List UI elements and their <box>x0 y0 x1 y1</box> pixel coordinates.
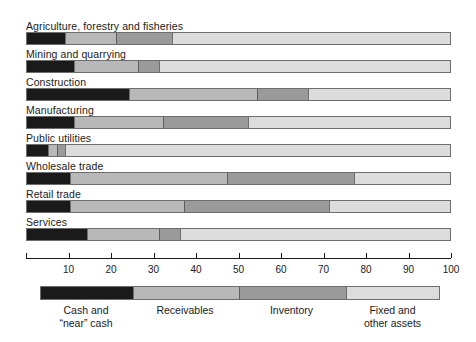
bar-segment[interactable] <box>27 61 74 72</box>
bar-segment[interactable] <box>159 61 451 72</box>
bar-segment[interactable] <box>227 173 355 184</box>
axis-tick-label: 80 <box>360 264 371 275</box>
legend-swatch[interactable] <box>133 287 239 299</box>
bar-segment[interactable] <box>70 173 227 184</box>
bar-segment[interactable] <box>354 173 451 184</box>
bar-segment[interactable] <box>138 61 159 72</box>
x-axis-line <box>26 258 451 259</box>
bar-segment[interactable] <box>27 33 65 44</box>
axis-tick-label: 20 <box>105 264 116 275</box>
legend-label: Fixed andother assets <box>364 304 421 329</box>
bar-segment[interactable] <box>65 33 116 44</box>
axis-tick-label: 70 <box>318 264 329 275</box>
stacked-bar[interactable] <box>26 32 451 45</box>
axis-tick-label: 50 <box>233 264 244 275</box>
bar-segment[interactable] <box>27 117 74 128</box>
stacked-bar[interactable] <box>26 60 451 73</box>
bar-segment[interactable] <box>48 145 57 156</box>
axis-tick <box>281 253 282 258</box>
bar-category-label: Agriculture, forestry and fisheries <box>26 20 183 32</box>
bar-segment[interactable] <box>257 89 308 100</box>
bar-segment[interactable] <box>329 201 451 212</box>
bar-category-label: Services <box>26 216 67 228</box>
bar-segment[interactable] <box>184 201 329 212</box>
stacked-bar[interactable] <box>26 228 451 241</box>
bar-segment[interactable] <box>27 229 87 240</box>
axis-tick-label: 40 <box>190 264 201 275</box>
bar-segment[interactable] <box>180 229 451 240</box>
axis-tick <box>154 253 155 258</box>
legend-label: Inventory <box>270 304 313 317</box>
legend-label: Receivables <box>156 304 213 317</box>
bar-segment[interactable] <box>163 117 248 128</box>
bar-segment[interactable] <box>57 145 66 156</box>
legend-color-bar <box>40 286 440 300</box>
axis-tick-label: 10 <box>63 264 74 275</box>
stacked-bar[interactable] <box>26 116 451 129</box>
bar-segment[interactable] <box>248 117 451 128</box>
axis-tick <box>111 253 112 258</box>
bar-category-label: Manufacturing <box>26 104 94 116</box>
stacked-bar[interactable] <box>26 200 451 213</box>
axis-tick-label: 30 <box>148 264 159 275</box>
legend-swatch[interactable] <box>346 287 440 299</box>
axis-tick <box>69 253 70 258</box>
bar-category-label: Mining and quarrying <box>26 48 126 60</box>
stacked-bar[interactable] <box>26 144 451 157</box>
stacked-bar[interactable] <box>26 172 451 185</box>
bar-segment[interactable] <box>159 229 180 240</box>
axis-tick <box>451 253 452 258</box>
bar-segment[interactable] <box>308 89 452 100</box>
axis-tick <box>196 253 197 258</box>
bar-category-label: Retail trade <box>26 188 81 200</box>
bar-segment[interactable] <box>172 33 452 44</box>
axis-tick <box>26 253 27 258</box>
bar-segment[interactable] <box>27 89 129 100</box>
axis-tick <box>366 253 367 258</box>
chart-figure: Agriculture, forestry and fisheriesMinin… <box>0 0 476 342</box>
legend-swatch[interactable] <box>41 287 133 299</box>
bar-segment[interactable] <box>65 145 451 156</box>
axis-tick <box>409 253 410 258</box>
bar-segment[interactable] <box>70 201 185 212</box>
bar-segment[interactable] <box>74 61 138 72</box>
x-axis: 102030405060708090100 <box>26 258 451 280</box>
axis-tick-label: 90 <box>403 264 414 275</box>
chart-legend: Cash and“near” cashReceivablesInventoryF… <box>0 286 476 342</box>
axis-tick <box>239 253 240 258</box>
bar-segment[interactable] <box>27 201 70 212</box>
axis-tick-label: 60 <box>275 264 286 275</box>
legend-swatch[interactable] <box>239 287 346 299</box>
bar-segment[interactable] <box>74 117 163 128</box>
bar-category-label: Wholesale trade <box>26 160 103 172</box>
axis-tick <box>324 253 325 258</box>
bar-segment[interactable] <box>87 229 159 240</box>
bar-category-label: Public utilities <box>26 132 91 144</box>
bar-category-label: Construction <box>26 76 86 88</box>
bar-segment[interactable] <box>27 173 70 184</box>
axis-tick-label: 100 <box>443 264 460 275</box>
chart-plot-area: Agriculture, forestry and fisheriesMinin… <box>0 0 476 270</box>
legend-label: Cash and“near” cash <box>59 304 112 329</box>
bar-segment[interactable] <box>129 89 257 100</box>
bar-segment[interactable] <box>27 145 48 156</box>
bar-segment[interactable] <box>116 33 171 44</box>
stacked-bar[interactable] <box>26 88 451 101</box>
